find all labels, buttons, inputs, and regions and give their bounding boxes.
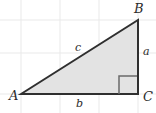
vertex-label-a: A bbox=[8, 88, 18, 103]
figure-canvas: A B C a b c bbox=[0, 0, 156, 113]
vertex-label-c: C bbox=[143, 89, 153, 104]
vertex-label-b: B bbox=[133, 1, 144, 16]
side-label-a: a bbox=[143, 45, 150, 58]
side-label-b: b bbox=[76, 97, 83, 110]
right-triangle-figure: A B C a b c bbox=[0, 0, 156, 113]
triangle-shape bbox=[21, 20, 138, 94]
side-label-c: c bbox=[75, 41, 81, 54]
